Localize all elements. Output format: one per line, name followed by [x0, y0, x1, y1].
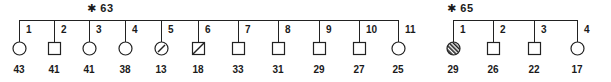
descent-line — [319, 20, 320, 42]
individual-age: 27 — [353, 64, 364, 75]
descent-line — [161, 20, 162, 42]
individual-number: 1 — [460, 24, 466, 35]
individual-number: 4 — [132, 24, 138, 35]
individual-age: 31 — [272, 64, 283, 75]
individual-number: 11 — [405, 24, 416, 35]
individual-number: 2 — [61, 24, 67, 35]
family-title: ✱ 63 — [87, 2, 114, 15]
square-unaffected-icon — [527, 41, 542, 56]
individual-age: 41 — [83, 64, 94, 75]
sibship-line — [453, 20, 578, 21]
descent-line — [534, 20, 535, 42]
circle-unaffected-icon — [391, 41, 406, 56]
individual-age: 41 — [48, 64, 59, 75]
descent-line — [198, 20, 199, 42]
square-unaffected-icon — [312, 41, 327, 56]
square-unaffected-icon — [486, 41, 501, 56]
descent-line — [278, 20, 279, 42]
descent-line — [54, 20, 55, 42]
individual-number: 10 — [366, 24, 377, 35]
square-slashed-icon — [191, 41, 206, 56]
square-unaffected-icon — [352, 41, 367, 56]
individual-age: 33 — [232, 64, 243, 75]
individual-number: 3 — [541, 24, 547, 35]
individual-number: 1 — [26, 24, 32, 35]
sibship-line — [19, 20, 399, 21]
pedigree-diagram: ✱ 6314324134143851361873383192910271125✱… — [0, 0, 611, 82]
individual-age: 22 — [528, 64, 539, 75]
descent-line — [453, 20, 454, 42]
descent-line — [359, 20, 360, 42]
descent-line — [125, 20, 126, 42]
square-unaffected-icon — [231, 41, 246, 56]
descent-line — [19, 20, 20, 42]
descent-line — [398, 20, 399, 42]
descent-line — [238, 20, 239, 42]
family-title: ✱ 65 — [447, 2, 474, 15]
circle-unaffected-icon — [82, 41, 97, 56]
descent-line — [89, 20, 90, 42]
individual-age: 38 — [119, 64, 130, 75]
circle-unaffected-icon — [570, 41, 585, 56]
circle-unaffected-icon — [12, 41, 27, 56]
individual-age: 25 — [392, 64, 403, 75]
individual-number: 2 — [500, 24, 506, 35]
circle-unaffected-icon — [118, 41, 133, 56]
square-unaffected-icon — [271, 41, 286, 56]
descent-line — [493, 20, 494, 42]
descent-line — [577, 20, 578, 42]
circle-hatched-icon — [446, 41, 461, 56]
individual-number: 3 — [96, 24, 102, 35]
circle-slashed-icon — [154, 41, 169, 56]
individual-number: 6 — [205, 24, 211, 35]
individual-number: 9 — [326, 24, 332, 35]
square-unaffected-icon — [47, 41, 62, 56]
individual-age: 26 — [487, 64, 498, 75]
individual-number: 8 — [285, 24, 291, 35]
individual-age: 43 — [13, 64, 24, 75]
individual-age: 18 — [192, 64, 203, 75]
individual-age: 29 — [447, 64, 458, 75]
individual-number: 5 — [168, 24, 174, 35]
individual-number: 7 — [245, 24, 251, 35]
individual-age: 17 — [571, 64, 582, 75]
individual-number: 4 — [584, 24, 590, 35]
individual-age: 13 — [155, 64, 166, 75]
individual-age: 29 — [313, 64, 324, 75]
